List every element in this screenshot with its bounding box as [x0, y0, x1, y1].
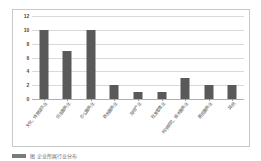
x-tick-label: 办公服务业 [79, 101, 95, 119]
caption-label: 图 企业所属行业分布 [30, 153, 77, 159]
figure-caption: 图 企业所属行业分布 [12, 153, 172, 161]
bar-slot [32, 16, 56, 99]
bar[interactable] [63, 51, 72, 99]
bar-slot [220, 16, 244, 99]
bars-layer [32, 16, 244, 99]
bar-slot [197, 16, 221, 99]
x-tick-label: 居民服务业 [197, 101, 213, 119]
bar[interactable] [39, 30, 48, 99]
x-axis: 文化、体育娱乐业信息服务业办公服务业商务服务业房地产业批发零售业科学研究、技术服… [32, 101, 244, 145]
chart-frame: 024681012 文化、体育娱乐业信息服务业办公服务业商务服务业房地产业批发零… [12, 9, 250, 147]
x-tick-label: 房地产业 [128, 101, 142, 116]
bar-slot [79, 16, 103, 99]
y-tick-label: 10 [24, 27, 29, 32]
y-tick-label: 0 [26, 97, 29, 102]
caption-marker-icon [12, 154, 26, 158]
bar[interactable] [133, 92, 142, 99]
x-tick-label: 商务服务业 [102, 101, 118, 119]
y-tick-label: 8 [26, 41, 29, 46]
y-tick-label: 4 [26, 69, 29, 74]
bar[interactable] [228, 85, 237, 99]
bar[interactable] [86, 30, 95, 99]
x-tick-label: 科学研究、技术服务业 [161, 101, 189, 135]
x-tick-label: 批发零售业 [150, 101, 166, 119]
x-tick-label: 信息服务业 [55, 101, 71, 119]
bar[interactable] [110, 85, 119, 99]
y-axis: 024681012 [13, 16, 32, 99]
y-tick-label: 6 [26, 55, 29, 60]
bar-slot [103, 16, 127, 99]
bar-slot [173, 16, 197, 99]
bar-slot [150, 16, 174, 99]
y-tick-label: 2 [26, 83, 29, 88]
x-tick-label: 文化、体育娱乐业 [25, 101, 48, 129]
figure-root: 024681012 文化、体育娱乐业信息服务业办公服务业商务服务业房地产业批发零… [0, 0, 261, 161]
bar-slot [56, 16, 80, 99]
bar-slot [126, 16, 150, 99]
bar[interactable] [181, 78, 190, 99]
y-tick-label: 12 [24, 14, 29, 19]
bar[interactable] [157, 92, 166, 99]
x-tick-label: 其他 [227, 101, 236, 110]
bar[interactable] [204, 85, 213, 99]
